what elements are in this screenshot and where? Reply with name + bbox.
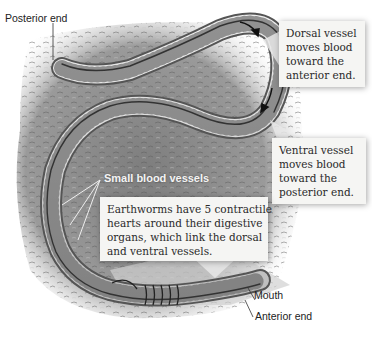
label-anterior-end: Anterior end bbox=[255, 310, 312, 322]
callout-contractile-hearts: Earthworms have 5 contractile hearts aro… bbox=[100, 197, 268, 261]
callout-line: posterior end. bbox=[279, 185, 360, 199]
callout-line: moves blood bbox=[279, 157, 360, 171]
callout-line: anterior end. bbox=[286, 68, 359, 82]
callout-line: moves blood bbox=[286, 40, 359, 54]
label-posterior-end: Posterior end bbox=[5, 12, 67, 24]
callout-line: toward the bbox=[279, 171, 360, 185]
callout-line: organs, which link the dorsal bbox=[107, 230, 262, 244]
callout-line: toward the bbox=[286, 54, 359, 68]
callout-dorsal-vessel: Dorsal vessel moves blood toward the ant… bbox=[279, 21, 365, 87]
callout-line: and ventral vessels. bbox=[107, 244, 262, 258]
callout-ventral-vessel: Ventral vessel moves blood toward the po… bbox=[272, 138, 366, 204]
label-small-blood-vessels: Small blood vessels bbox=[104, 172, 209, 184]
label-mouth: Mouth bbox=[254, 289, 283, 301]
callout-line: Dorsal vessel bbox=[286, 26, 359, 40]
callout-line: Ventral vessel bbox=[279, 143, 360, 157]
earthworm-diagram: Posterior end Small blood vessels Mouth … bbox=[0, 0, 372, 343]
callout-line: Earthworms have 5 contractile bbox=[107, 202, 262, 216]
callout-line: hearts around their digestive bbox=[107, 216, 262, 230]
